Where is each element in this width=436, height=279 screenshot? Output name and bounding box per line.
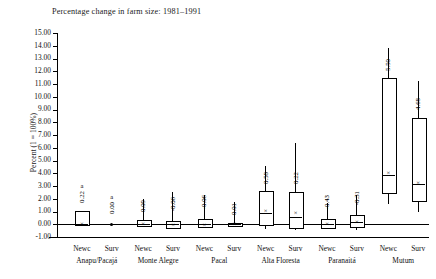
y-axis-tick-label: 15.00: [34, 28, 51, 37]
y-axis-tick-label: 7.00: [38, 130, 51, 139]
boxplot-value-label: 0.58: [262, 172, 269, 184]
y-axis-tick-mark: [53, 212, 57, 213]
y-axis-tick-label: 5.00: [38, 155, 51, 164]
y-axis-tick-label: 12.00: [34, 66, 51, 75]
x-axis-tick-label: Newc: [318, 244, 335, 253]
y-axis-tick-label: 11.00: [35, 79, 51, 88]
y-axis-tick-mark: [53, 135, 57, 136]
boxplot-median-line: [289, 217, 302, 218]
boxplot-mean-marker: ×: [264, 208, 268, 215]
boxplot-value-label: 0.22: [78, 191, 85, 203]
boxplot-value-label: 0.22: [292, 172, 299, 184]
boxplot-mean-marker: ×: [386, 170, 390, 177]
boxplot-mean-marker: ×: [232, 221, 236, 228]
y-axis-tick-mark: [53, 97, 57, 98]
y-axis-tick-mark: [53, 46, 57, 47]
boxplot: ×4.68: [412, 33, 425, 237]
y-axis-tick-label: 3.00: [38, 181, 51, 190]
boxplot-mean-marker: ×: [171, 222, 175, 229]
boxplot: ×5.50: [382, 33, 395, 237]
y-axis-tick-mark: [53, 59, 57, 60]
y-axis-tick-label: 14.00: [34, 41, 51, 50]
y-axis-tick-label: 13.00: [34, 53, 51, 62]
y-axis-tick-label: 8.00: [38, 117, 51, 126]
boxplot-point-marker: [110, 223, 113, 226]
x-axis-tick-label: Surv: [350, 244, 364, 253]
boxplot-value-label: 5.50: [385, 59, 392, 71]
y-axis-tick-mark: [53, 199, 57, 200]
boxplot: ×0.22: [289, 33, 302, 237]
chart-figure: Percentage change in farm size: 1981–199…: [0, 0, 436, 279]
chart-title: Percentage change in farm size: 1981–199…: [52, 7, 201, 16]
y-axis-tick-label: 10.00: [34, 92, 51, 101]
x-axis-group-label: Pacal: [211, 256, 227, 265]
x-axis-group-label: Mutum: [392, 256, 414, 265]
boxplot: ×-0.06: [198, 33, 211, 237]
y-axis-tick-label: 6.00: [38, 143, 51, 152]
boxplot-mean-marker: ×: [141, 221, 145, 228]
y-axis-tick-mark: [53, 148, 57, 149]
boxplot-mean-marker: ×: [355, 219, 359, 226]
x-axis-tick-label: Surv: [289, 244, 303, 253]
boxplot-note-label: a: [110, 194, 113, 201]
y-axis-tick-mark: [53, 71, 57, 72]
boxplot-mean-marker: ×: [416, 180, 420, 187]
x-axis-line: [49, 237, 429, 238]
boxplot: 0.00a: [105, 33, 118, 237]
x-axis-tick-label: Surv: [105, 244, 119, 253]
y-axis-tick-mark: [53, 186, 57, 187]
x-axis-tick-label: Newc: [73, 244, 90, 253]
y-axis-tick-mark: [53, 122, 57, 123]
boxplot-value-label: -0.31: [353, 191, 360, 205]
boxplot-value-label: -0.43: [324, 195, 331, 209]
boxplot: ×0.58: [259, 33, 272, 237]
x-axis-tick-label: Newc: [135, 244, 152, 253]
boxplot-value-label: 0.01: [231, 203, 238, 215]
x-axis-group-label: Paranaitá: [328, 256, 356, 265]
boxplot-mean-marker: ×: [203, 221, 207, 228]
plot-area: 15.0014.0013.0012.0011.0010.009.008.007.…: [57, 33, 429, 237]
y-axis-tick-mark: [53, 173, 57, 174]
boxplot: ×-0.06: [166, 33, 179, 237]
y-axis-tick-mark: [53, 161, 57, 162]
x-axis-tick-label: Newc: [196, 244, 213, 253]
x-axis-group-label: Anapu/Pacajá: [76, 256, 117, 265]
x-axis-tick-label: Newc: [380, 244, 397, 253]
boxplot-value-label: 0.09: [140, 200, 147, 212]
boxplot-mean-marker: ×: [294, 210, 298, 217]
y-axis-tick-label: 2.00: [38, 194, 51, 203]
y-axis-tick-label: 1.00: [38, 206, 51, 215]
y-axis-tick-mark: [53, 33, 57, 34]
y-axis-tick-label: 4.00: [38, 168, 51, 177]
boxplot-note-label: a: [80, 183, 83, 190]
boxplot-value-label: 4.68: [415, 98, 422, 110]
y-axis-tick-mark: [53, 84, 57, 85]
boxplot: ×0.09: [137, 33, 150, 237]
x-axis-tick-label: Surv: [411, 244, 425, 253]
boxplot-box: [412, 118, 427, 202]
boxplot: ×0.22a: [75, 33, 88, 237]
y-axis-tick-mark: [53, 110, 57, 111]
y-axis-tick-label: 0.00: [38, 219, 51, 228]
boxplot-mean-marker: ×: [325, 221, 329, 228]
boxplot-value-label: 0.00: [108, 202, 115, 214]
boxplot-value-label: -0.06: [170, 197, 177, 211]
x-axis-group-label: Alta Floresta: [261, 256, 299, 265]
y-axis-line: [57, 33, 58, 237]
x-axis-group-label: Monte Alegre: [138, 256, 179, 265]
boxplot-whisker-upper: [295, 143, 296, 192]
boxplot-mean-marker: ×: [80, 220, 84, 227]
boxplot: ×-0.43: [321, 33, 334, 237]
x-axis-tick-label: Surv: [227, 244, 241, 253]
x-axis-tick-label: Surv: [166, 244, 180, 253]
boxplot-value-label: -0.06: [201, 195, 208, 209]
boxplot: ×-0.31: [350, 33, 363, 237]
y-axis-tick-label: 9.00: [38, 104, 51, 113]
boxplot: ×0.01: [228, 33, 241, 237]
x-axis-tick-label: Newc: [257, 244, 274, 253]
